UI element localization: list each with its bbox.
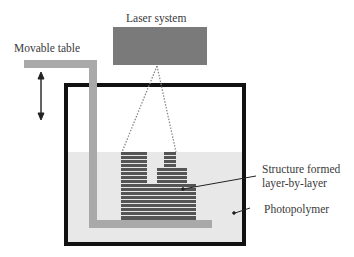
structure-label-line2: layer-by-layer xyxy=(262,177,327,190)
up-down-arrow-icon xyxy=(38,72,44,120)
movable-table-label: Movable table xyxy=(14,42,80,55)
structure-label-line1: Structure formed xyxy=(262,163,340,176)
diagram-canvas xyxy=(0,0,354,257)
laser-system-box xyxy=(113,27,207,65)
laser-system-label: Laser system xyxy=(126,12,186,25)
photopolymer-label: Photopolymer xyxy=(264,203,329,216)
laser-beams xyxy=(122,66,176,152)
